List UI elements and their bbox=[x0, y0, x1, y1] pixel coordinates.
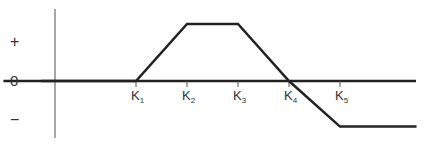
x-tick-label: K3 bbox=[233, 88, 247, 105]
x-tick-label: K5 bbox=[335, 88, 349, 105]
y-tick-label: − bbox=[10, 111, 19, 128]
payoff-line bbox=[3, 24, 416, 127]
x-tick-label: K2 bbox=[182, 88, 196, 105]
x-tick-label: K1 bbox=[131, 88, 145, 105]
x-tick-label: K4 bbox=[284, 88, 298, 105]
y-tick-label: 0 bbox=[10, 72, 18, 89]
payoff-diagram: K1K2K3K4K5+0− bbox=[0, 0, 438, 144]
y-tick-label: + bbox=[10, 33, 19, 50]
